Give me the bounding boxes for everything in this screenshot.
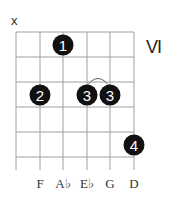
finger-dot-4: 4: [124, 135, 145, 156]
finger-dot-1: 1: [53, 35, 74, 56]
finger-dot-3a: 3: [77, 85, 98, 106]
svg-text:2: 2: [36, 87, 44, 104]
chord-diagram: x VI 1 2: [0, 0, 172, 199]
note-string-4: E♭: [80, 176, 94, 192]
svg-text:3: 3: [83, 87, 91, 104]
svg-text:4: 4: [130, 137, 138, 154]
svg-text:3: 3: [106, 87, 114, 104]
finger-dot-2: 2: [30, 85, 51, 106]
note-string-2: F: [36, 176, 43, 192]
note-string-6: D: [129, 176, 138, 192]
svg-text:1: 1: [59, 37, 67, 54]
fretboard-grid: 1 2 3 3 4: [0, 0, 172, 199]
note-string-3: A♭: [55, 176, 70, 192]
finger-dot-3b: 3: [100, 85, 121, 106]
note-string-5: G: [105, 176, 114, 192]
